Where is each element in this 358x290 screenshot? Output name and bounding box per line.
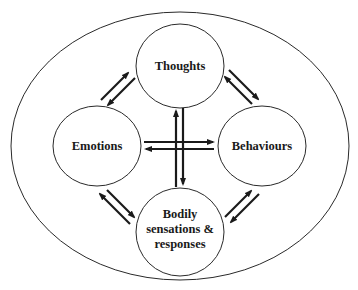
node-bodily-label-line3: responses [154,237,205,251]
node-bodily-sensations: Bodily sensations & responses [136,188,224,276]
edge-behaviours-bodily-arrows [225,191,259,222]
node-bodily-label-line2: sensations & [146,222,214,236]
cbt-cycle-diagram: Thoughts Emotions Behaviours Bodily sens… [0,0,358,290]
node-emotions: Emotions [53,106,141,186]
edge-thoughts-behaviours-arrows [225,70,258,104]
node-thoughts: Thoughts [136,24,224,108]
node-emotions-label: Emotions [72,139,123,153]
node-behaviours-label: Behaviours [232,139,293,153]
edge-emotions-behaviours-arrows [144,142,214,149]
node-behaviours: Behaviours [218,106,306,186]
node-thoughts-label: Thoughts [155,59,206,73]
edge-thoughts-bodily-arrows [176,108,183,187]
edge-emotions-bodily-arrows [100,190,134,224]
node-bodily-label-line1: Bodily [163,207,198,221]
edge-emotions-thoughts-arrows [101,73,135,105]
